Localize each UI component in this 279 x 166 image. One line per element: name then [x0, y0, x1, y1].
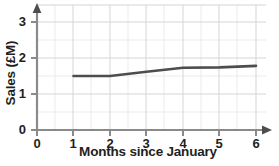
x-axis-title: Months since January [37, 144, 259, 159]
y-axis-title: Sales (£M) [2, 8, 20, 138]
data-line-sales [74, 66, 257, 76]
line-chart: 3 2 1 0 0 1 2 3 4 5 6 Sales (£M) Months … [0, 0, 279, 166]
